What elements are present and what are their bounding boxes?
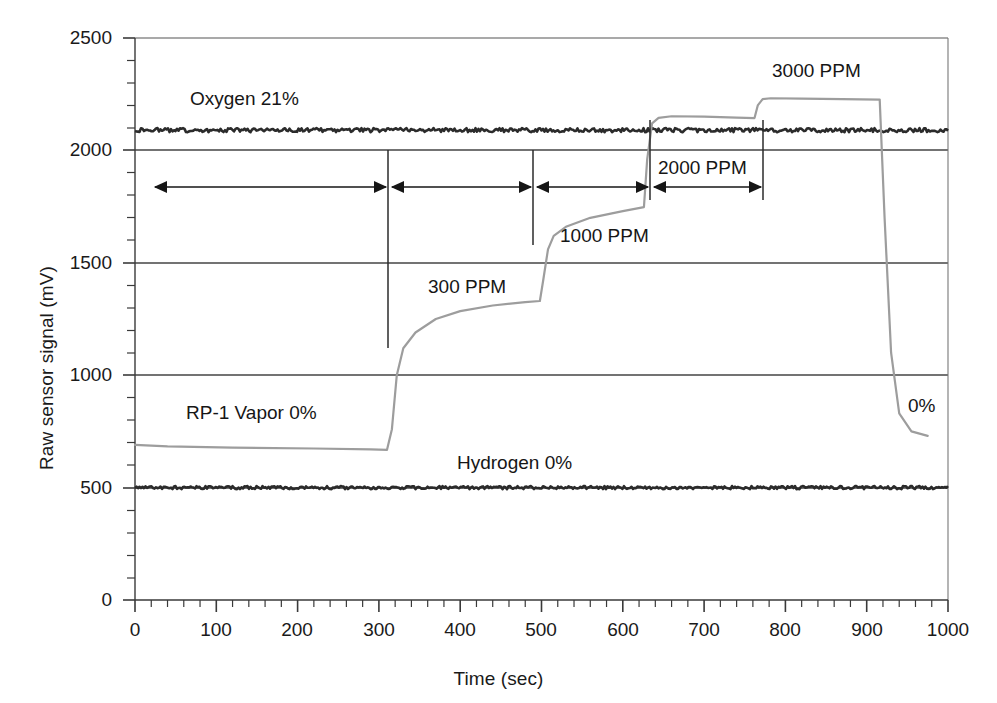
y-tick-label-500: 500 <box>24 477 112 499</box>
x-tick-label-500: 500 <box>501 619 581 641</box>
annotation-1000-ppm-label: 1000 PPM <box>560 225 649 247</box>
x-tick-label-1000: 1000 <box>908 619 988 641</box>
y-tick-label-0: 0 <box>24 589 112 611</box>
chart-plot-svg <box>0 0 997 703</box>
y-axis-ticks <box>123 38 135 600</box>
x-tick-label-800: 800 <box>745 619 825 641</box>
series-rp1-vapor <box>135 98 928 450</box>
series-hydrogen-0-percent <box>135 486 948 489</box>
annotation-rp1-vapor-label: RP-1 Vapor 0% <box>186 402 317 424</box>
x-axis-title: Time (sec) <box>0 668 997 690</box>
y-tick-label-2000: 2000 <box>24 139 112 161</box>
plot-frame <box>135 38 948 600</box>
chart-container: 2500 2000 1500 1000 500 0 0 100 200 300 … <box>0 0 997 703</box>
x-tick-label-200: 200 <box>257 619 337 641</box>
series-oxygen-21-percent <box>135 128 948 132</box>
annotation-0-percent-label: 0% <box>908 395 935 417</box>
x-tick-label-400: 400 <box>420 619 500 641</box>
annotation-3000-ppm-label: 3000 PPM <box>772 60 861 82</box>
x-tick-label-700: 700 <box>664 619 744 641</box>
y-tick-label-2500: 2500 <box>24 27 112 49</box>
annotation-300-ppm-label: 300 PPM <box>428 276 506 298</box>
x-tick-label-100: 100 <box>176 619 256 641</box>
x-tick-label-900: 900 <box>827 619 907 641</box>
x-tick-label-600: 600 <box>583 619 663 641</box>
x-tick-label-0: 0 <box>95 619 175 641</box>
annotation-2000-ppm-label: 2000 PPM <box>658 157 747 179</box>
annotation-hydrogen-label: Hydrogen 0% <box>457 452 572 474</box>
y-axis-title: Raw sensor signal (mV) <box>36 266 58 470</box>
x-tick-label-300: 300 <box>339 619 419 641</box>
annotation-oxygen-label: Oxygen 21% <box>190 88 299 110</box>
x-axis-ticks <box>135 600 948 612</box>
